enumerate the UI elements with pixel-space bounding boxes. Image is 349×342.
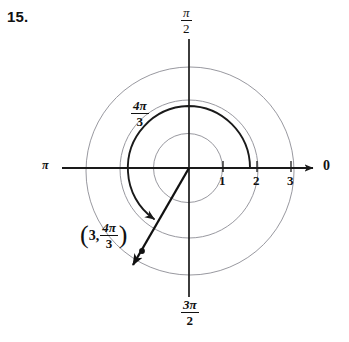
radial-tick-marks [223, 161, 291, 172]
angle-label-4pi-over-3: 4π 3 [131, 99, 149, 128]
point-label-open-paren: ( [80, 220, 89, 249]
point-label-close-paren: ) [119, 220, 128, 249]
radial-tick-label-3: 3 [287, 173, 294, 189]
axis-label-pi: π [42, 159, 49, 171]
angle-label-numerator: 4π [131, 99, 149, 114]
plotted-point [139, 248, 145, 254]
point-label-denominator: 3 [100, 236, 118, 250]
axes [62, 39, 313, 297]
point-label-radius: 3, [89, 228, 100, 243]
radial-tick-label-2: 2 [253, 173, 260, 189]
terminal-ray [133, 168, 189, 265]
axis-label-pi-over-2-denominator: 2 [181, 21, 192, 35]
polar-plot-canvas [0, 0, 349, 342]
axis-label-3pi-over-2: 3π 2 [181, 298, 199, 327]
polar-graph-figure: 15. [0, 0, 349, 342]
angle-label-denominator: 3 [131, 114, 149, 128]
axis-label-3pi-over-2-denominator: 2 [181, 313, 199, 327]
axis-label-pi-over-2-numerator: π [181, 6, 192, 21]
axis-label-3pi-over-2-numerator: 3π [181, 298, 199, 313]
point-coordinate-label: (3, 4π 3 ) [80, 221, 127, 250]
point-label-numerator: 4π [100, 221, 118, 236]
radial-tick-label-1: 1 [219, 173, 226, 189]
axis-label-zero: 0 [323, 159, 330, 173]
axis-label-pi-over-2: π 2 [181, 6, 192, 35]
